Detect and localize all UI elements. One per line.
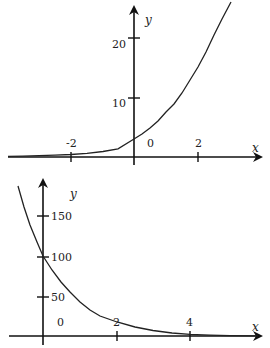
x-tick-label-2: 2 xyxy=(195,137,202,150)
x-axis-label: x xyxy=(252,320,259,334)
y-tick-label-10: 10 xyxy=(112,97,126,110)
growth-curve xyxy=(8,2,231,156)
growth-chart: 20 10 -2 0 2 y x xyxy=(8,2,259,165)
y-tick-label-20: 20 xyxy=(112,38,126,51)
x-tick-label-neg2: -2 xyxy=(66,137,77,150)
y-tick-label-50: 50 xyxy=(51,291,65,304)
y-axis-label: y xyxy=(69,187,77,201)
decay-chart: 150 100 50 0 2 4 y x xyxy=(9,183,259,345)
y-tick-label-100: 100 xyxy=(51,251,72,264)
x-axis-label: x xyxy=(252,141,259,155)
y-tick-label-150: 150 xyxy=(51,210,72,223)
x-tick-label-0: 0 xyxy=(57,316,64,329)
y-axis-label: y xyxy=(144,13,152,27)
figure: 20 10 -2 0 2 y x 150 100 50 0 2 4 y x xyxy=(0,0,270,348)
x-tick-label-4: 4 xyxy=(186,316,193,329)
x-tick-label-0: 0 xyxy=(147,137,154,150)
